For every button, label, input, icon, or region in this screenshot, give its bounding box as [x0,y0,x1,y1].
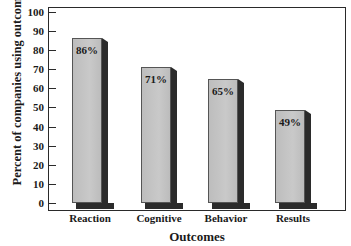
bar-shadow-side [238,83,244,209]
bar-shadow-bottom [279,203,317,209]
bar-shadow-bottom [145,203,183,209]
bar-results: 49% [275,110,311,203]
bar-value-label: 49% [275,116,305,128]
ytick-10 [49,184,56,185]
ytick-100 [49,12,56,13]
ytick-90 [49,31,56,32]
bar-cognitive: 71% [141,67,177,203]
ytick-20 [49,165,56,166]
ytick-0 [49,203,56,204]
ytick-30 [49,146,56,147]
ytick-50 [49,107,56,108]
bar-behavior: 65% [208,79,244,203]
ytick-80 [49,50,56,51]
bar-face [208,79,238,203]
bar-shadow-bottom [76,203,114,209]
bar-value-label: 71% [141,73,171,85]
ytick-60 [49,88,56,89]
ytick-label-0: 0 [18,198,44,209]
ytick-40 [49,127,56,128]
bar-shadow-side [305,114,311,209]
category-label-cognitive: Cognitive [124,212,194,224]
category-label-behavior: Behavior [191,212,261,224]
category-label-reaction: Reaction [55,212,125,224]
bar-shadow-side [171,71,177,209]
x-axis-title: Outcomes [48,229,346,245]
bar-face [72,38,102,203]
bar-shadow-side [102,42,108,209]
bar-value-label: 65% [208,85,238,97]
bar-reaction: 86% [72,38,108,203]
category-label-results: Results [258,212,328,224]
ytick-70 [49,69,56,70]
bar-value-label: 86% [72,44,102,56]
bar-shadow-bottom [212,203,250,209]
y-axis-title: Percent of companies using outcome [10,36,25,186]
bar-face [141,67,171,203]
